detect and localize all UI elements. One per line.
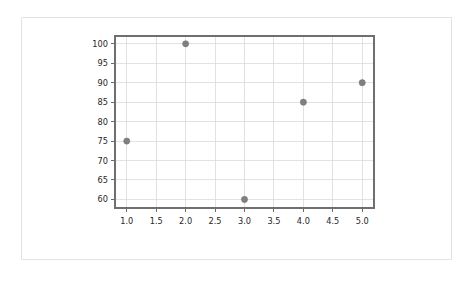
- data-point-1-75[interactable]: [124, 138, 130, 144]
- y-tick-labels: 6065707580859095100: [92, 39, 108, 205]
- x-tick-label-4.0: 4.0: [297, 216, 310, 226]
- x-tick-label-4.5: 4.5: [326, 216, 339, 226]
- chart-card: 6065707580859095100 1.01.52.02.53.03.54.…: [21, 17, 452, 260]
- screenshot-root: 6065707580859095100 1.01.52.02.53.03.54.…: [0, 0, 473, 284]
- x-tickmarks: [127, 208, 362, 212]
- x-tick-label-2.0: 2.0: [179, 216, 192, 226]
- data-point-3-60[interactable]: [241, 196, 247, 202]
- scatter-plot-svg: 6065707580859095100 1.01.52.02.53.03.54.…: [22, 18, 453, 261]
- data-point-4-85[interactable]: [300, 99, 306, 105]
- y-tick-label-65: 65: [98, 175, 108, 185]
- data-point-2-100[interactable]: [183, 41, 189, 47]
- x-tick-label-3.5: 3.5: [267, 216, 280, 226]
- y-tick-label-95: 95: [98, 58, 108, 68]
- y-tick-label-75: 75: [98, 136, 108, 146]
- x-tick-label-1.0: 1.0: [120, 216, 133, 226]
- y-tick-label-100: 100: [92, 39, 108, 49]
- x-tick-label-3.0: 3.0: [238, 216, 251, 226]
- x-tick-label-1.5: 1.5: [150, 216, 163, 226]
- y-tick-label-90: 90: [98, 78, 108, 88]
- y-tick-label-60: 60: [98, 194, 108, 204]
- x-gridlines: [127, 36, 362, 208]
- x-tick-labels: 1.01.52.02.53.03.54.04.55.0: [120, 216, 368, 226]
- y-tick-label-70: 70: [98, 156, 108, 166]
- scatter-plot-figure: 6065707580859095100 1.01.52.02.53.03.54.…: [22, 18, 453, 261]
- y-tick-label-85: 85: [98, 97, 108, 107]
- data-point-5-90[interactable]: [359, 80, 365, 86]
- x-tick-label-5.0: 5.0: [356, 216, 369, 226]
- y-tickmarks: [111, 44, 115, 200]
- x-tick-label-2.5: 2.5: [209, 216, 222, 226]
- y-tick-label-80: 80: [98, 117, 108, 127]
